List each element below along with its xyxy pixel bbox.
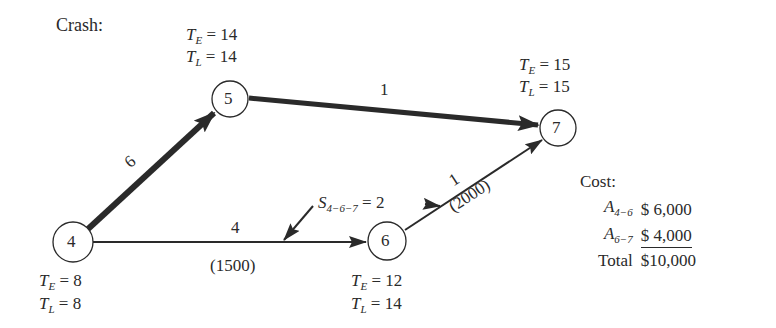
cost-title: Cost: [580, 172, 696, 192]
edge-5-7 [249, 98, 538, 125]
node-7-label: 7 [552, 118, 561, 138]
edge-5-7-duration: 1 [380, 80, 389, 100]
node-7-tl: TL = 15 [519, 76, 570, 103]
cost-total-row: Total $10,000 [598, 250, 696, 272]
cost-row: A4−6 $ 6,000 [598, 196, 696, 223]
cost-summary: Cost: A4−6 $ 6,000 A6−7 $ 4,000 Total $1… [580, 172, 696, 272]
node-4-label: 4 [67, 232, 76, 252]
cost-table: A4−6 $ 6,000 A6−7 $ 4,000 Total $10,000 [598, 196, 696, 272]
diagram-title: Crash: [56, 15, 103, 35]
slack-pointer-arrow-left [284, 206, 313, 240]
node-5-label: 5 [224, 89, 233, 109]
slack-annotation: S4−6−7 = 2 [318, 192, 384, 219]
cost-row: A6−7 $ 4,000 [598, 223, 696, 250]
node-5-tl: TL = 14 [186, 46, 237, 73]
edge-4-5 [88, 113, 214, 229]
slack-pointer-arrow-right [425, 204, 440, 206]
edge-4-6-duration: 4 [231, 218, 240, 238]
edge-4-6-cost: (1500) [210, 256, 255, 276]
node-6-tl: TL = 14 [351, 293, 402, 320]
node-6-label: 6 [381, 231, 390, 251]
node-4-tl: TL = 8 [39, 293, 81, 320]
